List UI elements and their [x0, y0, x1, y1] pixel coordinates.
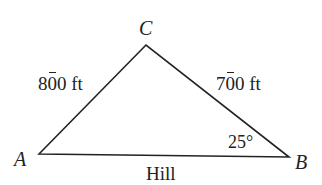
angle-label-b: 25° — [228, 133, 253, 151]
side-label-ac-significant-digit: 0 — [48, 73, 58, 94]
side-label-ac: 800 ft — [38, 74, 83, 93]
side-label-bc: 700 ft — [216, 74, 261, 93]
side-label-ab: Hill — [146, 164, 176, 183]
triangle-diagram: C A B 800 ft 700 ft 25° Hill — [0, 0, 322, 185]
vertex-label-a: A — [14, 149, 26, 169]
vertex-label-c: C — [139, 18, 152, 38]
vertex-label-b: B — [295, 152, 307, 172]
side-label-bc-rest: 0 ft — [235, 73, 261, 94]
side-label-bc-first-digit: 7 — [216, 73, 226, 94]
side-label-ac-first-digit: 8 — [38, 73, 48, 94]
side-label-bc-significant-digit: 0 — [226, 73, 236, 94]
side-label-ac-rest: 0 ft — [57, 73, 83, 94]
